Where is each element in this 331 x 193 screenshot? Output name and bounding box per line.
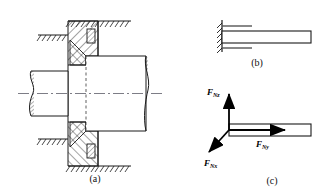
subfigure-a: (a) xyxy=(18,21,165,185)
force-label-nz: FNz xyxy=(206,87,220,98)
force-arrow-diagonal xyxy=(209,130,229,152)
engineering-figure: (a) (b) FNz xyxy=(0,0,331,193)
caption-c: (c) xyxy=(266,175,277,187)
bar-b xyxy=(222,31,311,43)
force-label-nx: FNx xyxy=(203,158,217,169)
caption-b: (b) xyxy=(251,57,263,69)
subfigure-b: (b) xyxy=(217,20,311,69)
support-hatching xyxy=(217,23,222,53)
subfigure-c: FNz FNy FNx (c) xyxy=(203,87,311,187)
force-label-ny: FNy xyxy=(255,139,269,150)
caption-a: (a) xyxy=(89,173,100,185)
